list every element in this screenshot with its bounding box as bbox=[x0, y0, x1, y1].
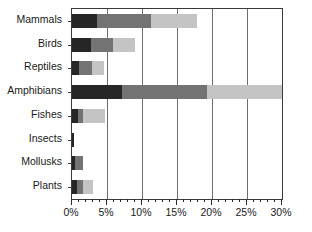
x-tick-major bbox=[176, 199, 177, 205]
bar-row bbox=[72, 109, 282, 123]
x-tick-major bbox=[141, 199, 142, 205]
bar-segment bbox=[122, 85, 207, 99]
bar-row bbox=[72, 133, 282, 147]
bar-segment bbox=[75, 156, 83, 170]
category-label-plants: Plants bbox=[0, 180, 62, 191]
bar-row bbox=[72, 14, 282, 28]
bar-row bbox=[72, 61, 282, 75]
category-label-fishes: Fishes bbox=[0, 109, 62, 120]
x-tick-major bbox=[246, 199, 247, 205]
x-axis-labels: 0%5%10%15%20%25%30% bbox=[0, 206, 312, 222]
x-tick-minor bbox=[92, 199, 93, 202]
x-tick-minor bbox=[260, 199, 261, 202]
bar-chart: MammalsBirdsReptilesAmphibiansFishesInse… bbox=[0, 0, 312, 232]
bar-segment bbox=[113, 38, 135, 52]
bar-segment bbox=[72, 133, 74, 147]
x-tick-minor bbox=[225, 199, 226, 202]
x-tick-minor bbox=[113, 199, 114, 202]
bar-segment bbox=[91, 38, 113, 52]
category-label-amphibians: Amphibians bbox=[0, 85, 62, 96]
x-tick-minor bbox=[253, 199, 254, 202]
category-label-mollusks: Mollusks bbox=[0, 156, 62, 167]
x-tick-minor bbox=[85, 199, 86, 202]
x-axis-label: 25% bbox=[226, 206, 266, 218]
x-tick-minor bbox=[99, 199, 100, 202]
x-axis-label: 15% bbox=[156, 206, 196, 218]
bar-segment bbox=[207, 85, 282, 99]
x-tick-minor bbox=[134, 199, 135, 202]
x-tick-minor bbox=[239, 199, 240, 202]
bar-row bbox=[72, 85, 282, 99]
category-label-birds: Birds bbox=[0, 38, 62, 49]
x-tick-minor bbox=[127, 199, 128, 202]
x-tick-minor bbox=[148, 199, 149, 202]
x-axis-label: 20% bbox=[191, 206, 231, 218]
x-tick-major bbox=[211, 199, 212, 205]
x-tick-major bbox=[281, 199, 282, 205]
x-axis-label: 30% bbox=[261, 206, 301, 218]
bar-row bbox=[72, 156, 282, 170]
bar-segment bbox=[92, 61, 104, 75]
bar-segment bbox=[151, 14, 197, 28]
bar-segment bbox=[72, 38, 91, 52]
bar-series-container bbox=[72, 9, 282, 199]
bar-segment bbox=[72, 14, 97, 28]
x-tick-major bbox=[106, 199, 107, 205]
bar-segment bbox=[83, 180, 93, 194]
x-tick-minor bbox=[267, 199, 268, 202]
x-axis-label: 5% bbox=[86, 206, 126, 218]
x-tick-minor bbox=[155, 199, 156, 202]
x-tick-minor bbox=[169, 199, 170, 202]
x-tick-minor bbox=[274, 199, 275, 202]
x-tick-minor bbox=[218, 199, 219, 202]
x-axis-label: 10% bbox=[121, 206, 161, 218]
x-tick-minor bbox=[120, 199, 121, 202]
x-axis-label: 0% bbox=[51, 206, 91, 218]
bar-segment bbox=[83, 109, 105, 123]
bar-segment bbox=[72, 85, 122, 99]
category-axis-labels: MammalsBirdsReptilesAmphibiansFishesInse… bbox=[0, 8, 66, 198]
category-label-reptiles: Reptiles bbox=[0, 61, 62, 72]
x-tick-minor bbox=[197, 199, 198, 202]
plot-area bbox=[71, 8, 283, 200]
bar-segment bbox=[97, 14, 151, 28]
x-tick-minor bbox=[183, 199, 184, 202]
x-tick-minor bbox=[162, 199, 163, 202]
x-tick-major bbox=[71, 199, 72, 205]
bar-row bbox=[72, 180, 282, 194]
x-tick-minor bbox=[190, 199, 191, 202]
x-tick-minor bbox=[204, 199, 205, 202]
category-label-insects: Insects bbox=[0, 133, 62, 144]
bar-row bbox=[72, 38, 282, 52]
bar-segment bbox=[79, 61, 92, 75]
x-tick-minor bbox=[78, 199, 79, 202]
category-label-mammals: Mammals bbox=[0, 14, 62, 25]
x-tick-minor bbox=[232, 199, 233, 202]
bar-segment bbox=[72, 61, 79, 75]
